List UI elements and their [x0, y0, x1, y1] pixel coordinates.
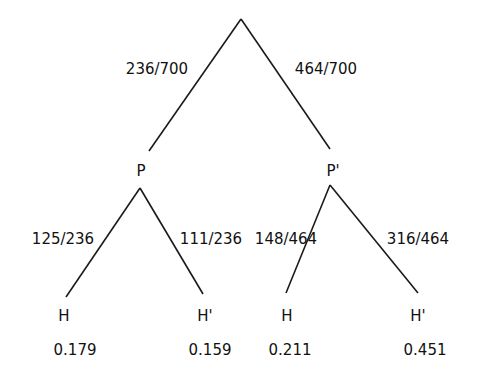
edge-label-p-hprime: 111/236: [180, 232, 242, 247]
tree-edges: [0, 0, 479, 376]
leaf-value-3: 0.211: [269, 343, 312, 358]
edge-root-to-pprime: [241, 19, 330, 149]
edge-label-root-pprime: 464/700: [295, 62, 357, 77]
probability-tree-diagram: 236/700 464/700 P P' 125/236 111/236 148…: [0, 0, 479, 376]
edge-label-root-p: 236/700: [126, 62, 188, 77]
leaf-node-h-1: H: [58, 309, 69, 324]
leaf-node-hprime-1: H': [197, 309, 212, 324]
leaf-value-2: 0.159: [189, 343, 232, 358]
edge-label-p-h: 125/236: [32, 232, 94, 247]
node-p: P: [136, 164, 145, 179]
leaf-value-4: 0.451: [404, 343, 447, 358]
edge-root-to-p: [149, 19, 241, 151]
edge-label-pprime-hprime: 316/464: [387, 232, 449, 247]
leaf-node-hprime-2: H': [410, 309, 425, 324]
leaf-node-h-2: H: [281, 309, 292, 324]
edge-label-pprime-h: 148/464: [255, 232, 317, 247]
leaf-value-1: 0.179: [54, 343, 97, 358]
node-pprime: P': [326, 164, 339, 179]
